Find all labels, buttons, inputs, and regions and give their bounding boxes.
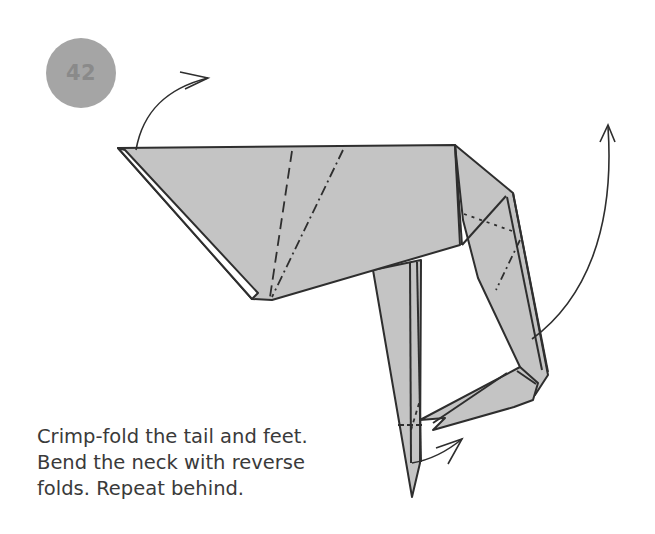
neck-shape bbox=[455, 145, 548, 395]
instruction-line-3: folds. Repeat behind. bbox=[37, 476, 367, 502]
instruction-line-1: Crimp-fold the tail and feet. bbox=[37, 424, 367, 450]
body-shape bbox=[118, 145, 506, 300]
leg-shape bbox=[373, 260, 421, 497]
head-shape bbox=[420, 367, 538, 430]
tail-arrow bbox=[136, 78, 208, 150]
neck-arrow bbox=[532, 127, 609, 339]
diagram-stage: 42 Crimp-fold the tail and feet. Bend th… bbox=[0, 0, 655, 534]
step-number: 42 bbox=[66, 61, 96, 85]
instruction-line-2: Bend the neck with reverse bbox=[37, 450, 367, 476]
instruction-text: Crimp-fold the tail and feet. Bend the n… bbox=[37, 424, 367, 502]
step-number-badge: 42 bbox=[46, 38, 116, 108]
